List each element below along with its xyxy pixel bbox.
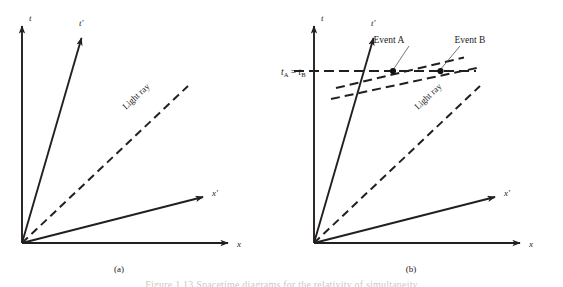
panel-b-x-axis-label: x (528, 239, 533, 249)
figure-caption-strip: Figure 1.13 Spacetime diagrams for the r… (0, 279, 563, 287)
panel-a-t-axis-label: t (29, 13, 32, 23)
sim-label-equals: = (288, 67, 298, 77)
spacetime-diagram-svg: t x t′ x′ Light ray (a) t x t′ (0, 0, 563, 287)
panel-b-x-prime-axis (314, 197, 495, 243)
panel-b-light-ray-label: Light ray (413, 81, 444, 111)
panel-b-simultaneity-label: tA = tB (281, 67, 306, 78)
panel-b-group: t x t′ x′ Event A Event B tA = tB Light … (281, 13, 533, 274)
panel-b-event-a-leader (393, 46, 409, 70)
panel-a-t-prime-axis (22, 38, 82, 243)
sim-label-sub-b: B (301, 71, 306, 78)
panel-b-t-axis-label: t (321, 13, 324, 23)
figure-root: t x t′ x′ Light ray (a) t x t′ (0, 0, 563, 287)
panel-a-x-axis-label: x (236, 239, 241, 249)
panel-b-light-ray-line (314, 86, 480, 243)
panel-b-t-prime-axis (314, 38, 374, 243)
panel-a-light-ray-label: Light ray (121, 81, 152, 111)
panel-b-event-a-dot (390, 68, 396, 74)
panel-a-group: t x t′ x′ Light ray (a) (22, 13, 241, 274)
panel-a-x-prime-axis-label: x′ (211, 188, 219, 198)
panel-a-x-prime-axis (22, 197, 203, 243)
panel-b-x-prime-axis-label: x′ (503, 188, 511, 198)
figure-caption: Figure 1.13 Spacetime diagrams for the r… (0, 279, 563, 287)
panel-b-tag: (b) (406, 264, 417, 274)
panel-b-event-b-label: Event B (455, 35, 486, 45)
panel-b-t-prime-axis-label: t′ (371, 18, 377, 28)
panel-a-tag: (a) (114, 264, 124, 274)
svg-text:tA = tB: tA = tB (281, 67, 306, 78)
panel-a-light-ray-line (22, 86, 188, 243)
panel-b-event-b-leader (440, 46, 460, 70)
panel-b-event-a-label: Event A (374, 35, 405, 45)
panel-a-t-prime-axis-label: t′ (79, 18, 85, 28)
panel-b-event-b-dot (437, 68, 443, 74)
